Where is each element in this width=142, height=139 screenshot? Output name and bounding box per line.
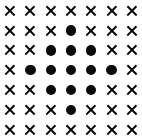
filled-dot-icon	[86, 85, 96, 95]
symbol-cell-r1-c7	[122, 0, 142, 20]
symbol-cell-r3-c7	[122, 40, 142, 60]
cross-mark-icon	[106, 85, 117, 96]
symbol-cell-r5-c6	[101, 79, 121, 99]
symbol-grid-body	[0, 0, 142, 139]
filled-dot-icon	[66, 85, 76, 95]
cross-mark-icon	[5, 85, 16, 96]
filled-dot-icon	[66, 25, 76, 35]
symbol-cell-r6-c1	[0, 99, 20, 119]
symbol-cell-r2-c1	[0, 20, 20, 40]
symbol-cell-r7-c3	[41, 119, 61, 139]
cross-mark-icon	[25, 124, 36, 135]
cross-mark-icon	[126, 65, 137, 76]
symbol-cell-r7-c2	[20, 119, 40, 139]
symbol-cell-r2-c2	[20, 20, 40, 40]
cross-mark-icon	[106, 124, 117, 135]
symbol-grid-row	[0, 79, 142, 99]
symbol-cell-r5-c3	[41, 79, 61, 99]
diamond-dot-grid-figure	[0, 0, 142, 139]
filled-dot-icon	[106, 65, 116, 75]
filled-dot-icon	[86, 45, 96, 55]
cross-mark-icon	[5, 5, 16, 16]
cross-mark-icon	[65, 124, 76, 135]
cross-mark-icon	[126, 104, 137, 115]
symbol-grid-row	[0, 40, 142, 60]
symbol-cell-r2-c7	[122, 20, 142, 40]
cross-mark-icon	[25, 25, 36, 36]
filled-dot-icon	[25, 65, 35, 75]
symbol-cell-r2-c5	[81, 20, 101, 40]
cross-mark-icon	[126, 124, 137, 135]
symbol-cell-r3-c4	[61, 40, 81, 60]
cross-mark-icon	[25, 45, 36, 56]
cross-mark-icon	[126, 45, 137, 56]
cross-mark-icon	[126, 85, 137, 96]
symbol-cell-r7-c5	[81, 119, 101, 139]
filled-dot-icon	[46, 65, 56, 75]
cross-mark-icon	[45, 124, 56, 135]
symbol-cell-r2-c6	[101, 20, 121, 40]
symbol-cell-r4-c5	[81, 60, 101, 80]
symbol-cell-r1-c5	[81, 0, 101, 20]
cross-mark-icon	[126, 25, 137, 36]
symbol-grid-row	[0, 60, 142, 80]
symbol-cell-r6-c7	[122, 99, 142, 119]
symbol-cell-r3-c1	[0, 40, 20, 60]
symbol-cell-r2-c4	[61, 20, 81, 40]
symbol-cell-r6-c3	[41, 99, 61, 119]
symbol-cell-r4-c6	[101, 60, 121, 80]
symbol-grid-row	[0, 20, 142, 40]
symbol-grid	[0, 0, 142, 139]
cross-mark-icon	[5, 65, 16, 76]
symbol-cell-r5-c2	[20, 79, 40, 99]
symbol-grid-row	[0, 119, 142, 139]
symbol-cell-r3-c3	[41, 40, 61, 60]
symbol-cell-r6-c4	[61, 99, 81, 119]
cross-mark-icon	[106, 25, 117, 36]
filled-dot-icon	[66, 65, 76, 75]
symbol-cell-r4-c3	[41, 60, 61, 80]
cross-mark-icon	[45, 25, 56, 36]
symbol-cell-r4-c4	[61, 60, 81, 80]
symbol-grid-row	[0, 0, 142, 20]
symbol-cell-r4-c2	[20, 60, 40, 80]
symbol-cell-r5-c5	[81, 79, 101, 99]
filled-dot-icon	[66, 45, 76, 55]
cross-mark-icon	[45, 5, 56, 16]
cross-mark-icon	[126, 5, 137, 16]
symbol-cell-r4-c7	[122, 60, 142, 80]
filled-dot-icon	[46, 85, 56, 95]
cross-mark-icon	[25, 104, 36, 115]
cross-mark-icon	[106, 104, 117, 115]
symbol-cell-r3-c5	[81, 40, 101, 60]
symbol-cell-r6-c5	[81, 99, 101, 119]
cross-mark-icon	[86, 5, 97, 16]
cross-mark-icon	[25, 85, 36, 96]
cross-mark-icon	[5, 124, 16, 135]
symbol-cell-r5-c1	[0, 79, 20, 99]
symbol-cell-r7-c6	[101, 119, 121, 139]
symbol-cell-r4-c1	[0, 60, 20, 80]
cross-mark-icon	[5, 45, 16, 56]
cross-mark-icon	[106, 5, 117, 16]
symbol-cell-r5-c7	[122, 79, 142, 99]
cross-mark-icon	[65, 5, 76, 16]
symbol-cell-r1-c1	[0, 0, 20, 20]
cross-mark-icon	[86, 124, 97, 135]
filled-dot-icon	[46, 45, 56, 55]
filled-dot-icon	[66, 105, 76, 115]
symbol-cell-r7-c4	[61, 119, 81, 139]
symbol-cell-r1-c4	[61, 0, 81, 20]
symbol-cell-r6-c6	[101, 99, 121, 119]
symbol-cell-r2-c3	[41, 20, 61, 40]
symbol-cell-r1-c3	[41, 0, 61, 20]
symbol-cell-r3-c6	[101, 40, 121, 60]
symbol-cell-r1-c6	[101, 0, 121, 20]
cross-mark-icon	[25, 5, 36, 16]
symbol-cell-r1-c2	[20, 0, 40, 20]
cross-mark-icon	[5, 25, 16, 36]
symbol-cell-r3-c2	[20, 40, 40, 60]
symbol-cell-r6-c2	[20, 99, 40, 119]
symbol-grid-row	[0, 99, 142, 119]
cross-mark-icon	[86, 104, 97, 115]
